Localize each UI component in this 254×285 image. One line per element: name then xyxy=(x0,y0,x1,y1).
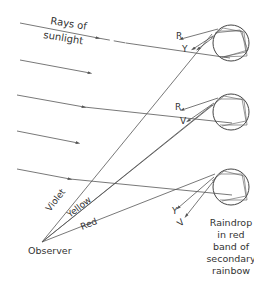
raindrop-caption: Raindrop in red band of secondary rainbo… xyxy=(206,217,254,276)
observer-ray-yellow xyxy=(42,105,213,242)
yellow-label: Yellow xyxy=(64,195,93,221)
bottom-drop-label-v: V xyxy=(175,216,187,228)
exit-ray-y xyxy=(193,36,213,49)
exit-ray-red-to-observer xyxy=(42,174,215,242)
middle-drop-label-v: V xyxy=(180,116,187,126)
caption-line: in red xyxy=(217,229,244,240)
violet-label: Violet xyxy=(44,187,68,214)
raindrop xyxy=(213,169,249,205)
raindrop xyxy=(213,25,249,61)
sun-ray-1-continued xyxy=(98,38,126,43)
top-drop-label-y: Y xyxy=(181,44,188,54)
caption-line: band of xyxy=(213,241,250,252)
exit-ray-y2 xyxy=(198,36,215,49)
sunlight-label-line2: sunlight xyxy=(43,29,84,46)
sun-ray-3 xyxy=(17,95,84,107)
red-label: Red xyxy=(79,216,99,232)
bottom-drop-label-y: Y xyxy=(171,206,178,216)
caption-line: secondary xyxy=(206,253,254,264)
sunlight-label-line1: Rays of xyxy=(50,15,89,32)
sun-ray-2 xyxy=(20,60,90,73)
caption-line: rainbow xyxy=(212,265,250,276)
sun-ray-3-to-drop xyxy=(84,107,232,123)
observer-label: Observer xyxy=(28,245,72,256)
sun-ray-5-to-drop xyxy=(70,179,232,195)
middle-drop-label-r: R xyxy=(175,102,181,112)
caption-line: Raindrop xyxy=(210,217,252,228)
exit-ray-v xyxy=(188,103,214,121)
sun-ray-5 xyxy=(17,169,70,179)
sun-ray-4 xyxy=(17,131,78,143)
secondary-rainbow-diagram: R Y R V Y V Rays of sunlight Violet Yell… xyxy=(0,0,254,285)
top-drop-label-r: R xyxy=(176,31,182,41)
raindrop xyxy=(213,94,249,130)
